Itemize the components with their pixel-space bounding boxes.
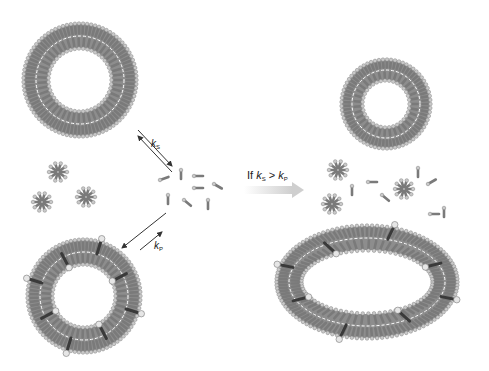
ks-arrow-pair	[138, 130, 172, 172]
micelles	[31, 160, 415, 215]
figure-canvas: kS kP If kS > kP	[0, 0, 489, 371]
label-kp: kP	[154, 240, 163, 252]
monomer	[182, 198, 191, 206]
micelle	[393, 179, 415, 200]
monomer	[442, 206, 446, 217]
monomer	[158, 177, 168, 182]
vesicle-bottom-left-mixed	[23, 235, 144, 356]
monomer	[366, 180, 377, 184]
monomer	[166, 193, 170, 204]
vesicle-bottom-right-elongated	[274, 221, 460, 342]
monomer	[350, 184, 354, 195]
micelle	[75, 187, 97, 208]
monomer	[179, 168, 183, 179]
monomer	[380, 193, 389, 201]
micelle	[327, 160, 349, 181]
micelle	[31, 192, 53, 213]
monomer	[206, 198, 210, 209]
gradient-arrow	[244, 182, 304, 198]
label-condition: If kS > kP	[247, 169, 288, 182]
monomer	[192, 174, 203, 178]
monomer	[416, 166, 420, 177]
monomer	[212, 182, 222, 188]
monomer	[426, 180, 436, 186]
micelle	[47, 162, 69, 183]
monomer	[428, 212, 439, 216]
diagram-svg	[0, 0, 489, 371]
monomer	[192, 186, 203, 190]
vesicle-top-right	[340, 58, 433, 151]
label-ks: kS	[151, 138, 160, 150]
vesicle-top-left	[22, 22, 139, 139]
micelle	[321, 194, 343, 215]
